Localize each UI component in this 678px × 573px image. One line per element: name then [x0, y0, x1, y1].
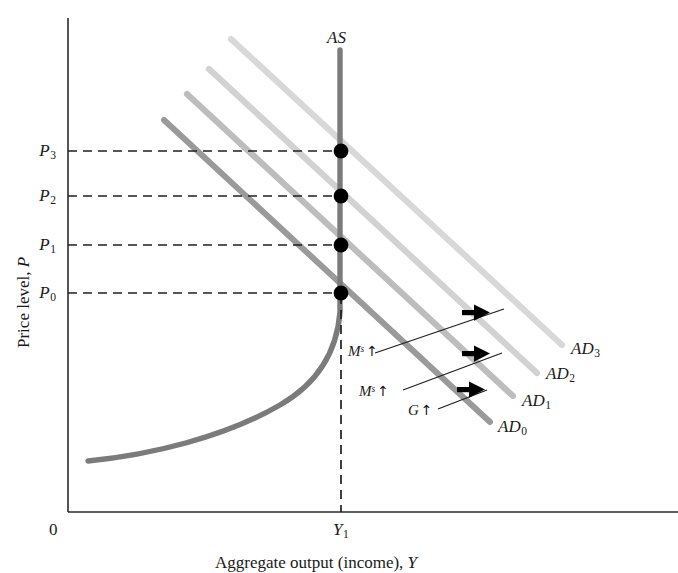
shift-annotation-government-spending: G↑ [408, 403, 433, 418]
up-arrow-icon: ↑ [419, 402, 433, 418]
as-curve-label: AS [327, 29, 346, 46]
ad2-curve [209, 69, 537, 373]
y-tick-label-p0: P0 [39, 284, 56, 301]
x-tick-label-y1: Y1 [333, 521, 349, 538]
x-axis-title: Aggregate output (income), Y [215, 553, 417, 573]
shift-annotation-money-supply-bottom: Ms↑ [359, 384, 389, 399]
ad0-curve-label: AD0 [498, 418, 527, 435]
y-axis-title: Price level, P [14, 257, 34, 348]
ad0-curve [164, 120, 490, 422]
equilibrium-dot-p0 [334, 286, 349, 301]
as-curve [88, 50, 340, 461]
up-arrow-icon: ↑ [375, 383, 389, 399]
equilibrium-dot-p2 [334, 189, 349, 204]
as-curve-group [88, 50, 340, 461]
y-tick-label-p3: P3 [39, 142, 56, 159]
y-tick-label-p1: P1 [39, 236, 56, 253]
y-tick-label-p2: P2 [39, 187, 56, 204]
origin-label: 0 [49, 521, 58, 538]
equilibrium-dot-p1 [334, 238, 349, 253]
up-arrow-icon: ↑ [364, 343, 378, 359]
ad2-curve-label: AD2 [546, 365, 575, 382]
equilibrium-dot-p3 [334, 144, 349, 159]
ad3-curve [231, 39, 562, 345]
ad1-curve-label: AD1 [522, 392, 551, 409]
shift-annotation-money-supply-top: Ms↑ [348, 344, 378, 359]
ad3-curve-label: AD3 [571, 340, 600, 357]
ad-curves-group [164, 39, 562, 422]
